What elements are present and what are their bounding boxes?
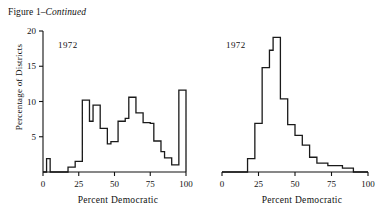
figure-caption-prefix: Figure 1– xyxy=(8,7,46,17)
x-tick-label: 100 xyxy=(361,179,375,189)
x-tick-label: 75 xyxy=(146,179,156,189)
y-axis-label-left: Percentage of Districts xyxy=(14,27,24,147)
x-tick-label: 25 xyxy=(74,179,84,189)
x-axis-label-left: Percent Democratic xyxy=(38,195,198,205)
chart-panel-left: Percentage of Districts 1972 02550751005… xyxy=(6,20,202,215)
figure-caption-emphasis: Continued xyxy=(46,7,86,17)
y-tick-label: 5 xyxy=(32,132,37,142)
x-tick-label: 50 xyxy=(110,179,120,189)
y-tick-label: 20 xyxy=(27,26,37,36)
x-tick-label: 75 xyxy=(327,179,337,189)
year-annotation-right: 1972 xyxy=(226,40,246,50)
histogram-outline xyxy=(43,90,186,172)
figure-root: Figure 1–Continued Percentage of Distric… xyxy=(0,0,392,221)
y-tick-label: 15 xyxy=(27,61,37,71)
x-tick-label: 100 xyxy=(179,179,193,189)
chart-panel-right: 1972 0255075100 Percent Democratic xyxy=(200,20,390,215)
x-tick-label: 25 xyxy=(254,179,264,189)
x-tick-label: 0 xyxy=(220,179,225,189)
figure-caption: Figure 1–Continued xyxy=(8,6,86,18)
y-tick-label: 10 xyxy=(27,97,37,107)
x-axis-label-right: Percent Democratic xyxy=(222,195,382,205)
year-annotation-left: 1972 xyxy=(58,40,78,50)
histogram-left: 02550751005101520 xyxy=(6,20,202,195)
x-tick-label: 50 xyxy=(291,179,301,189)
histogram-outline xyxy=(222,37,368,172)
x-tick-label: 0 xyxy=(41,179,46,189)
